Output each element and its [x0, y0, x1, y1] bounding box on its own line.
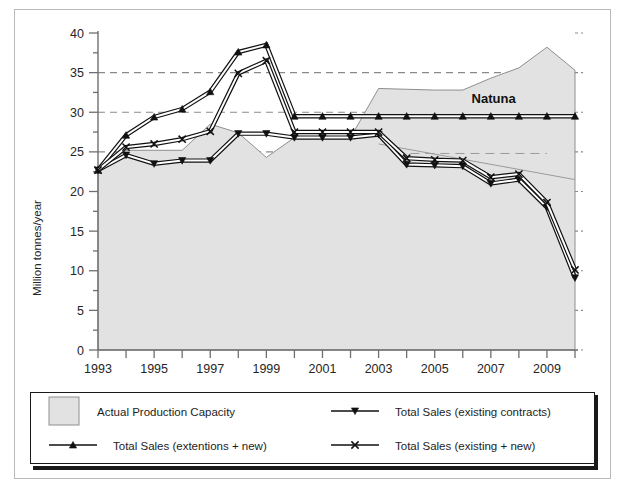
y-axis-label: Million tonnes/year [31, 200, 43, 296]
x-tick-label-2005: 2005 [421, 362, 449, 376]
legend-svg: Actual Production CapacityTotal Sales (e… [31, 393, 594, 463]
x-tick-label-2003: 2003 [365, 362, 393, 376]
y-tick-label-35: 35 [70, 66, 84, 80]
legend-label-total-sales-extentions-new: Total Sales (extentions + new) [113, 440, 267, 452]
legend-shadow-bottom [33, 466, 598, 470]
x-tick-label-1999: 1999 [252, 362, 280, 376]
legend-item-total-sales-existing-new[interactable]: Total Sales (existing + new) [331, 440, 535, 452]
y-tick-label-0: 0 [77, 344, 84, 358]
y-tick-label-5: 5 [77, 304, 84, 318]
y-tick-label-25: 25 [70, 145, 84, 159]
legend: Actual Production CapacityTotal Sales (e… [30, 392, 595, 464]
legend-label-total-sales-existing-new: Total Sales (existing + new) [395, 440, 535, 452]
legend-item-total-sales-existing-contracts[interactable]: Total Sales (existing contracts) [331, 406, 551, 418]
x-tick-label-1997: 1997 [196, 362, 224, 376]
legend-label-actual-production-capacity: Actual Production Capacity [97, 406, 235, 418]
y-tick-label-10: 10 [70, 264, 84, 278]
y-tick-label-40: 40 [70, 27, 84, 41]
x-tick-label-1995: 1995 [140, 362, 168, 376]
x-tick-label-1993: 1993 [84, 362, 112, 376]
x-tick-label-2007: 2007 [477, 362, 505, 376]
x-tick-label-2001: 2001 [309, 362, 337, 376]
legend-item-actual-production-capacity[interactable]: Actual Production Capacity [49, 397, 235, 425]
y-tick-label-30: 30 [70, 106, 84, 120]
legend-label-total-sales-existing-contracts: Total Sales (existing contracts) [395, 406, 551, 418]
y-tick-label-20: 20 [70, 185, 84, 199]
x-tick-label-2009: 2009 [533, 362, 561, 376]
annotation-natuna: Natuna [472, 91, 517, 106]
legend-swatch-capacity [49, 397, 79, 425]
legend-item-total-sales-extentions-new[interactable]: Total Sales (extentions + new) [49, 440, 267, 452]
legend-shadow-right [594, 395, 598, 470]
chart-figure: 0510152025303540199319951997199920012003… [0, 0, 625, 491]
y-tick-label-15: 15 [70, 225, 84, 239]
